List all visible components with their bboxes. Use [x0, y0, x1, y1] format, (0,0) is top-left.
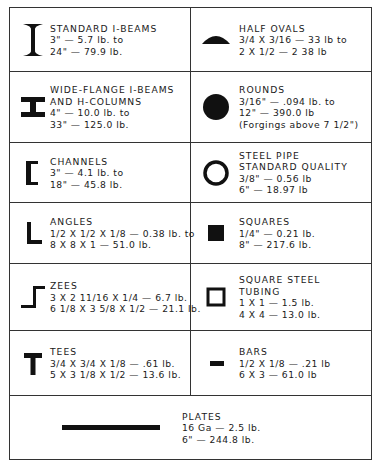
shape-note: (Forgings above 7 1/2") [239, 119, 358, 131]
shape-cell-angles: ANGLES 1/2 X 1/2 X 1/8 — 0.38 lb. to 8 X… [10, 203, 191, 263]
shape-title: STANDARD I-BEAMS [50, 22, 157, 34]
shape-range: 6" — 244.8 lb. [182, 433, 261, 445]
shape-range: 33" — 125.0 lb. [50, 119, 174, 131]
shape-title: WIDE-FLANGE I-BEAMS [50, 84, 174, 96]
shape-row: WIDE-FLANGE I-BEAMS AND H-COLUMNS 4" — 1… [10, 72, 371, 143]
tee-icon [18, 343, 48, 383]
shape-cell-square-tubing: SQUARE STEEL TUBING 1 X 1 — 1.5 lb. 4 X … [191, 264, 371, 330]
zee-icon [18, 277, 48, 317]
shape-range: 3 X 2 11/16 X 1/4 — 6.7 lb. [50, 291, 201, 303]
shape-title: AND H-COLUMNS [50, 96, 174, 108]
shape-title: CHANNELS [50, 155, 124, 167]
shape-cell-wide-flange: WIDE-FLANGE I-BEAMS AND H-COLUMNS 4" — 1… [10, 72, 191, 142]
shape-range: 1 X 1 — 1.5 lb. [239, 297, 321, 309]
shape-range: 3/16" — .094 lb. to [239, 96, 358, 108]
shape-range: 3" — 4.1 lb. to [50, 167, 124, 179]
channel-icon [18, 153, 48, 193]
shape-row: STANDARD I-BEAMS 3" — 5.7 lb. to 24" — 7… [10, 8, 371, 72]
shape-cell-standard-i-beams: STANDARD I-BEAMS 3" — 5.7 lb. to 24" — 7… [10, 8, 191, 71]
standard-i-beam-icon [18, 20, 48, 60]
shape-range: 4" — 10.0 lb. to [50, 107, 174, 119]
shape-title: SQUARE STEEL [239, 274, 321, 286]
shape-row-plates: PLATES 16 Ga — 2.5 lb. 6" — 244.8 lb. [10, 396, 371, 459]
plate-icon [62, 423, 160, 433]
shape-cell-half-ovals: HALF OVALS 3/4 X 3/16 — 33 lb to 2 X 1/2… [191, 8, 371, 71]
shape-row: ZEES 3 X 2 11/16 X 1/4 — 6.7 lb. 6 1/8 X… [10, 264, 371, 331]
flat-bar-icon [201, 343, 231, 383]
shape-range: 1/2 X 1/8 — .21 lb [239, 357, 331, 369]
shape-range: 1/4" — 0.21 lb. [239, 227, 315, 239]
shape-title: ANGLES [50, 216, 195, 228]
shape-range: 3/8" — 0.56 lb [239, 173, 348, 185]
shape-range: 18" — 45.8 lb. [50, 178, 124, 190]
shape-title: PLATES [182, 410, 261, 422]
shape-title: TEES [50, 346, 181, 358]
shape-title: SQUARES [239, 216, 315, 228]
shape-title: TUBING [239, 286, 321, 298]
shape-cell-steel-pipe: STEEL PIPE STANDARD QUALITY 3/8" — 0.56 … [191, 143, 371, 202]
steel-shapes-chart: STANDARD I-BEAMS 3" — 5.7 lb. to 24" — 7… [9, 7, 372, 460]
shape-range: 1/2 X 1/2 X 1/8 — 0.38 lb. to [50, 227, 195, 239]
shape-range: 3" — 5.7 lb. to [50, 34, 157, 46]
shape-cell-bars: BARS 1/2 X 1/8 — .21 lb 6 X 3 — 61.0 lb [191, 331, 371, 395]
shape-row: ANGLES 1/2 X 1/2 X 1/8 — 0.38 lb. to 8 X… [10, 203, 371, 264]
shape-range: 16 Ga — 2.5 lb. [182, 422, 261, 434]
wide-flange-beam-icon [18, 87, 48, 127]
steel-pipe-icon [201, 153, 231, 193]
square-bar-icon [201, 213, 231, 253]
shape-range: 6 X 3 — 61.0 lb [239, 369, 331, 381]
shape-range: 3/4 X 3/4 X 1/8 — .61 lb. [50, 357, 181, 369]
angle-icon [18, 213, 48, 253]
shape-range: 6 1/8 X 3 5/8 X 1/2 — 21.1 lb. [50, 303, 201, 315]
shape-range: 12" — 390.0 lb [239, 107, 358, 119]
shape-range: 4 X 4 — 13.0 lb. [239, 309, 321, 321]
shape-range: 5 X 3 1/8 X 1/2 — 13.6 lb. [50, 369, 181, 381]
shape-range: 8" — 217.6 lb. [239, 239, 315, 251]
shape-row: CHANNELS 3" — 4.1 lb. to 18" — 45.8 lb. … [10, 143, 371, 203]
round-bar-icon [201, 87, 231, 127]
shape-range: 2 X 1/2 — 2 38 lb [239, 45, 347, 57]
shape-title: ROUNDS [239, 84, 358, 96]
shape-cell-channels: CHANNELS 3" — 4.1 lb. to 18" — 45.8 lb. [10, 143, 191, 202]
shape-cell-squares: SQUARES 1/4" — 0.21 lb. 8" — 217.6 lb. [191, 203, 371, 263]
shape-range: 3/4 X 3/16 — 33 lb to [239, 34, 347, 46]
shape-title: ZEES [50, 280, 201, 292]
shape-range: 8 X 8 X 1 — 51.0 lb. [50, 239, 195, 251]
shape-range: 24" — 79.9 lb. [50, 45, 157, 57]
shape-title: STANDARD QUALITY [239, 161, 348, 173]
shape-range: 6" — 18.97 lb [239, 184, 348, 196]
shape-cell-rounds: ROUNDS 3/16" — .094 lb. to 12" — 390.0 l… [191, 72, 371, 142]
half-oval-icon [201, 20, 231, 60]
shape-cell-zees: ZEES 3 X 2 11/16 X 1/4 — 6.7 lb. 6 1/8 X… [10, 264, 191, 330]
shape-title: HALF OVALS [239, 22, 347, 34]
square-tubing-icon [201, 277, 231, 317]
shape-cell-tees: TEES 3/4 X 3/4 X 1/8 — .61 lb. 5 X 3 1/8… [10, 331, 191, 395]
shape-row: TEES 3/4 X 3/4 X 1/8 — .61 lb. 5 X 3 1/8… [10, 331, 371, 396]
shape-title: STEEL PIPE [239, 150, 348, 162]
shape-title: BARS [239, 346, 331, 358]
